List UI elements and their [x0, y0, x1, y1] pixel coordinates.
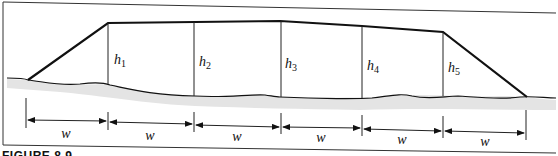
- width-label-4: w: [316, 130, 326, 145]
- dimension-arrow-1: [28, 120, 106, 121]
- width-label-5: w: [397, 132, 407, 147]
- height-label-1: h1: [114, 52, 126, 69]
- dimension-arrow-3: [196, 125, 279, 127]
- figure-caption: FIGURE 8.9: [2, 150, 72, 156]
- height-label-5: h5: [448, 60, 460, 77]
- dimension-arrow-4: [283, 127, 360, 128]
- width-label-1: w: [61, 126, 71, 141]
- dimension-arrow-2: [110, 122, 192, 124]
- height-label-2: h2: [199, 54, 211, 71]
- width-label-6: w: [480, 134, 490, 149]
- frame-border: [3, 2, 556, 13]
- dimension-arrows: [28, 120, 524, 133]
- dimension-arrow-5: [364, 129, 441, 131]
- width-label-2: w: [145, 128, 155, 143]
- width-label-3: w: [232, 129, 242, 144]
- height-label-3: h3: [285, 56, 297, 73]
- height-label-4: h4: [367, 58, 379, 75]
- cross-section-diagram: h1 h2 h3 h4 h5 w w w w w w: [0, 0, 558, 156]
- dimension-arrow-6: [445, 131, 524, 133]
- frame-bottom: [3, 145, 556, 153]
